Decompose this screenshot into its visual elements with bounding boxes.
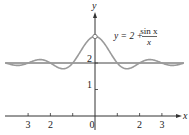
x-axis-arrow-icon	[176, 114, 182, 118]
x-tick-label: 2	[48, 119, 53, 130]
function-label: y = 2 + sin x x	[113, 26, 158, 47]
function-label-numerator: sin x	[140, 26, 158, 36]
y-axis-arrow-icon	[93, 12, 97, 18]
x-tick-label: 0	[90, 119, 95, 130]
open-circle-hole	[93, 34, 97, 38]
y-ticks: 12	[87, 53, 98, 91]
function-label-lhs: y = 2 +	[113, 31, 143, 41]
x-tick-label: 3	[26, 119, 31, 130]
chart: x y 32023 12 y = 2 + sin x x	[0, 0, 189, 135]
y-tick-label: 2	[87, 53, 92, 64]
y-tick-label: 1	[87, 79, 92, 90]
y-axis-label: y	[91, 0, 97, 11]
x-axis-label: x	[182, 110, 188, 121]
x-tick-label: 3	[159, 119, 164, 130]
function-label-denominator: x	[146, 37, 151, 47]
x-tick-label: 2	[137, 119, 142, 130]
